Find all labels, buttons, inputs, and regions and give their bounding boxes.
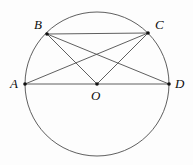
vertex-label-o: O [91,89,100,102]
segment-ac [25,33,148,84]
geometry-figure: A B C D O [0,0,193,165]
point-c [146,31,150,35]
point-a [23,82,27,86]
geometry-canvas [0,0,193,165]
point-d [167,82,171,86]
point-b [45,32,49,36]
segment-ob [47,34,97,84]
segment-bd [47,34,169,84]
vertex-label-d: D [175,77,184,90]
vertex-label-c: C [155,18,164,31]
vertex-label-b: B [34,18,42,31]
segment-oc [97,33,148,84]
point-o [95,82,99,86]
vertex-label-a: A [10,77,18,90]
segment-bc [47,33,148,34]
